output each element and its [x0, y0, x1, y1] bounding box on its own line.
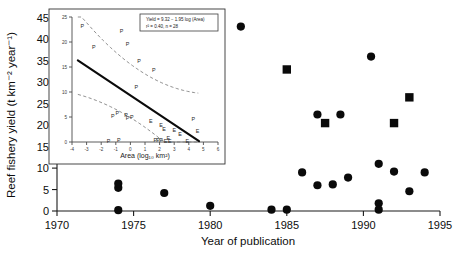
y-tick-label: 10: [37, 162, 49, 174]
inset-point-label: P: [92, 44, 96, 50]
data-point-circle: [206, 202, 214, 210]
inset-point-label: P: [80, 23, 84, 29]
inset-point-label: E: [162, 126, 166, 132]
data-point-circle: [405, 187, 413, 195]
inset-x-tick-label: 6: [217, 147, 220, 152]
data-point-circle: [313, 181, 321, 189]
inset-y-tick-label: 10: [62, 90, 68, 95]
y-tick-label: 30: [37, 76, 49, 88]
figure-canvas: 197019751980198519901995 051015202530354…: [0, 0, 458, 257]
data-point-circle: [114, 179, 122, 187]
inset-y-tick-label: 20: [62, 40, 68, 45]
y-tick-label: 15: [37, 141, 49, 153]
inset-point-label: E: [149, 118, 153, 124]
x-tick-label: 1990: [351, 219, 375, 231]
data-point-square: [321, 119, 329, 127]
inset-y-tick-label: 5: [64, 115, 67, 120]
data-point-circle: [267, 206, 275, 214]
data-point-circle: [313, 110, 321, 118]
data-point-circle: [298, 168, 306, 176]
data-point-circle: [390, 167, 398, 175]
inset-x-tick-label: 4: [188, 147, 191, 152]
data-point-circle: [375, 160, 383, 168]
main-x-ticks: 197019751980198519901995: [45, 211, 452, 231]
inset-x-tick-label: 5: [202, 147, 205, 152]
data-point-circle: [336, 110, 344, 118]
inset-point-label: E: [186, 138, 190, 144]
data-point-circle: [344, 173, 352, 181]
inset-x-tick-label: -1: [114, 147, 119, 152]
inset-point-label: E: [168, 138, 172, 144]
y-tick-label: 35: [37, 55, 49, 67]
data-point-square: [283, 65, 291, 73]
y-tick-label: 20: [37, 119, 49, 131]
inset-point-label: P: [126, 41, 130, 47]
inset-panel: -4-3-2-10123456 0510152025 PPPPPPPPPPPPE…: [49, 9, 225, 164]
inset-annotation-box: Yield = 9.32 − 1.95 log (Area) r² = 0.40…: [140, 14, 218, 31]
chart-svg: 197019751980198519901995 051015202530354…: [0, 0, 458, 257]
y-tick-label: 25: [37, 98, 49, 110]
annotation-stats: r² = 0.40, n = 28: [146, 24, 179, 29]
inset-point-label: P: [107, 138, 111, 144]
main-x-axis-title: Year of publication: [201, 235, 295, 247]
data-point-circle: [375, 206, 383, 214]
inset-point-label: P: [117, 137, 121, 143]
x-tick-label: 1995: [428, 219, 452, 231]
x-tick-label: 1980: [198, 219, 222, 231]
inset-point-label: P: [137, 58, 141, 64]
data-point-circle: [114, 206, 122, 214]
data-point-circle: [329, 180, 337, 188]
main-y-axis-title: Reef fishery yield (t km⁻² year⁻¹): [5, 32, 17, 198]
data-point-circle: [160, 189, 168, 197]
inset-point-label: P: [191, 116, 195, 122]
data-point-square: [390, 119, 398, 127]
y-tick-label: 45: [37, 12, 49, 24]
data-point-circle: [421, 168, 429, 176]
inset-x-tick-label: -4: [70, 147, 75, 152]
data-point-circle: [367, 53, 375, 61]
inset-point-label: P: [152, 67, 156, 73]
annotation-equation: Yield = 9.32 − 1.95 log (Area): [146, 17, 205, 22]
inset-point-label: P: [134, 84, 138, 90]
inset-point-label: E: [196, 128, 200, 134]
y-tick-label: 40: [37, 33, 49, 45]
x-tick-label: 1970: [45, 219, 69, 231]
data-point-square: [405, 93, 413, 101]
inset-y-tick-label: 0: [64, 140, 67, 145]
data-point-circle: [283, 206, 291, 214]
x-tick-label: 1975: [121, 219, 145, 231]
inset-x-tick-label: 3: [173, 147, 176, 152]
inset-point-label: P: [115, 110, 119, 116]
y-tick-label: 0: [43, 205, 49, 217]
inset-x-tick-label: -3: [85, 147, 90, 152]
inset-point-label: P: [120, 28, 124, 34]
inset-point-label: E: [178, 131, 182, 137]
inset-y-tick-label: 15: [62, 65, 68, 70]
inset-point-label: E: [172, 127, 176, 133]
x-tick-label: 1985: [275, 219, 299, 231]
inset-x-axis-title: Area (log₁₀ km²): [120, 152, 170, 160]
data-point-circle: [237, 22, 245, 30]
inset-point-label: P: [130, 114, 134, 120]
inset-x-tick-label: -2: [99, 147, 104, 152]
inset-y-tick-label: 25: [62, 15, 68, 20]
y-tick-label: 5: [43, 184, 49, 196]
